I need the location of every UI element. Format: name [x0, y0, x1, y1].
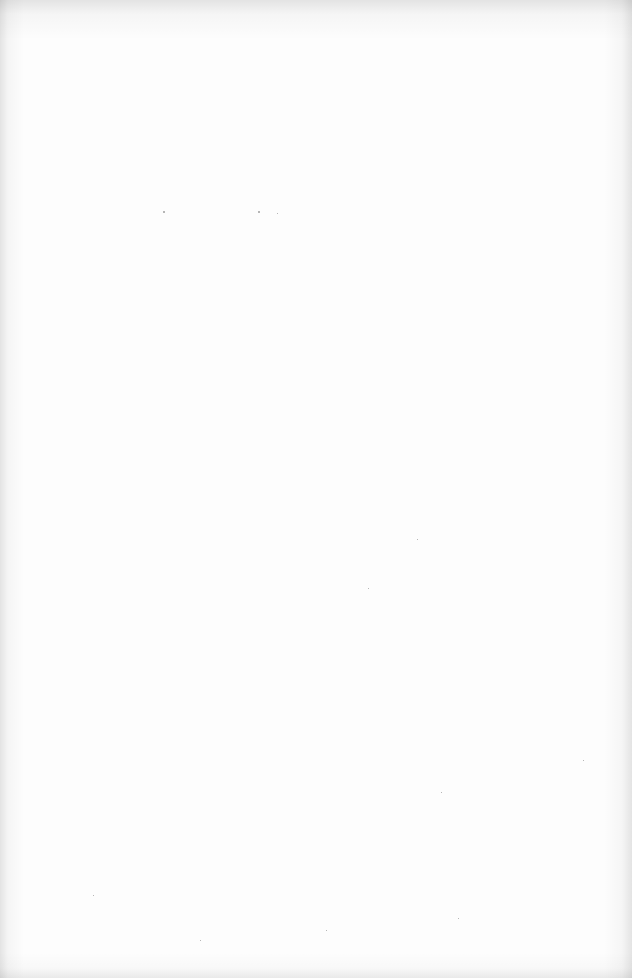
scan-speck [417, 539, 418, 540]
scan-speck [458, 918, 459, 919]
scan-edge-shading [0, 0, 632, 978]
scan-speck [163, 211, 165, 213]
scan-speck [277, 213, 278, 214]
scan-speck [93, 895, 94, 896]
scan-speck [326, 930, 327, 931]
scan-speck [441, 792, 442, 793]
blank-scanned-page [0, 0, 632, 978]
scan-speck [258, 211, 260, 213]
scan-speck [583, 760, 584, 761]
scan-speck [200, 940, 201, 941]
scan-grain-noise [0, 618, 632, 978]
scan-speck [368, 588, 369, 589]
